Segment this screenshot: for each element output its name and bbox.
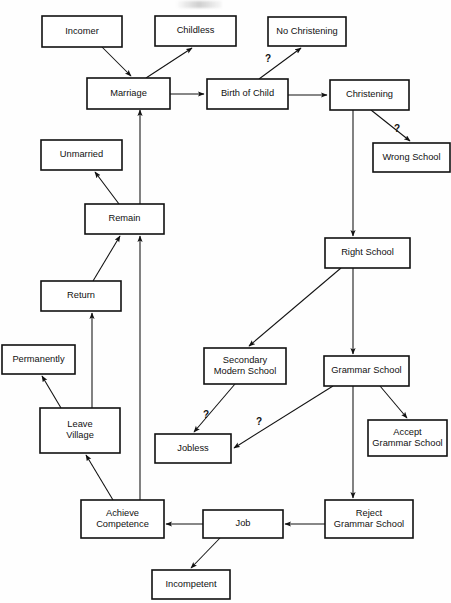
edge-christening-wrong — [371, 110, 410, 141]
node-label: Permanently — [12, 354, 65, 364]
node-label: Return — [67, 290, 95, 300]
node-label: Accept — [393, 427, 422, 437]
node-nochrist[interactable]: No Christening — [268, 17, 346, 46]
node-label: Competence — [96, 519, 149, 529]
node-christening[interactable]: Christening — [330, 80, 409, 110]
node-remain[interactable]: Remain — [85, 204, 164, 234]
edge-job-incompetent — [191, 538, 220, 568]
node-return[interactable]: Return — [41, 281, 121, 311]
flowchart-canvas: ???? IncomerChildlessNo ChristeningMarri… — [0, 0, 451, 603]
node-label: Achieve — [106, 508, 139, 518]
node-reject[interactable]: RejectGrammar School — [325, 500, 413, 538]
nodes-layer: IncomerChildlessNo ChristeningMarriageBi… — [2, 16, 450, 599]
edge-marriage-childless — [146, 48, 192, 78]
node-label: Grammar School — [334, 519, 404, 529]
node-jobless[interactable]: Jobless — [155, 434, 231, 463]
edge-label-question-mark: ? — [203, 409, 209, 420]
edge-grammar-jobless — [234, 386, 333, 448]
node-label: Modern School — [214, 366, 277, 376]
edge-rightschool-secondary — [249, 268, 341, 346]
node-achieve[interactable]: AchieveCompetence — [81, 500, 164, 538]
node-unmarried[interactable]: Unmarried — [41, 140, 122, 170]
node-label: Grammar School — [331, 365, 401, 375]
edge-remain-unmarried — [95, 172, 119, 204]
node-label: Incompetent — [165, 579, 217, 589]
edge-secondary-jobless — [194, 384, 235, 432]
node-label: Reject — [356, 508, 383, 518]
node-incompetent[interactable]: Incompetent — [152, 570, 230, 599]
edge-return-remain — [93, 236, 120, 281]
node-label: Remain — [108, 213, 140, 223]
node-label: Grammar School — [372, 438, 442, 448]
node-label: Christening — [346, 89, 393, 99]
node-label: Childless — [177, 25, 215, 35]
node-label: Birth of Child — [221, 88, 274, 98]
node-label: No Christening — [276, 26, 338, 36]
edge-label-question-mark: ? — [265, 53, 271, 64]
node-wrongschool[interactable]: Wrong School — [373, 143, 450, 172]
node-job[interactable]: Job — [203, 510, 283, 538]
node-rightschool[interactable]: Right School — [325, 238, 410, 268]
node-label: Right School — [341, 247, 394, 257]
node-label: Incomer — [65, 26, 99, 36]
node-permanently[interactable]: Permanently — [2, 345, 75, 374]
node-secondary[interactable]: SecondaryModern School — [204, 348, 286, 384]
node-marriage[interactable]: Marriage — [87, 78, 170, 109]
edge-achieve-leave — [86, 455, 113, 500]
edge-grammar-accept — [380, 386, 407, 418]
node-grammar[interactable]: Grammar School — [324, 356, 409, 386]
edge-label-question-mark: ? — [394, 123, 400, 134]
edge-incomer-marriage — [102, 47, 131, 76]
node-incomer[interactable]: Incomer — [42, 16, 122, 47]
node-label: Unmarried — [60, 149, 103, 159]
node-accept[interactable]: AcceptGrammar School — [368, 420, 447, 456]
node-label: Leave — [67, 419, 92, 429]
edge-label-question-mark: ? — [256, 416, 262, 427]
node-label: Marriage — [110, 88, 147, 98]
node-label: Wrong School — [382, 152, 440, 162]
node-childless[interactable]: Childless — [155, 16, 236, 46]
node-label: Job — [236, 518, 251, 528]
flowchart-svg: ???? IncomerChildlessNo ChristeningMarri… — [0, 0, 451, 603]
node-label: Secondary — [223, 355, 268, 365]
node-leave[interactable]: LeaveVillage — [40, 408, 120, 453]
node-birth[interactable]: Birth of Child — [207, 79, 288, 109]
node-label: Village — [66, 430, 94, 440]
edge-leave-permanently — [42, 376, 61, 408]
node-label: Jobless — [177, 443, 209, 453]
